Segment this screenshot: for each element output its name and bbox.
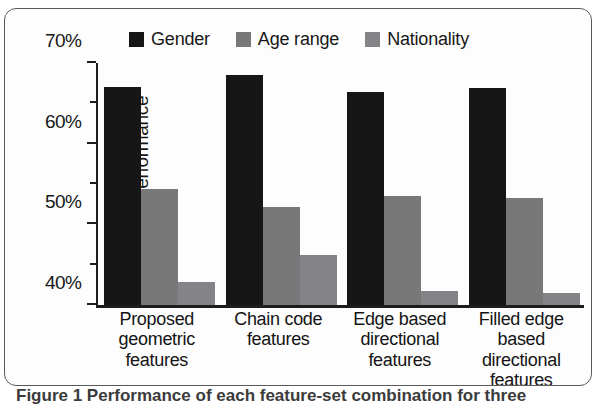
legend-swatch-icon	[236, 32, 251, 47]
legend-label: Nationality	[387, 29, 469, 50]
legend-swatch-icon	[365, 32, 380, 47]
bar-group	[461, 63, 583, 305]
bar-nat	[543, 293, 580, 305]
y-tick-label: 50%	[45, 191, 82, 213]
bar-nat	[178, 282, 215, 305]
y-tick-label: 60%	[45, 110, 82, 132]
bar-gender	[469, 88, 506, 305]
plot-area: Average performance 70%60%50%40%	[96, 63, 582, 305]
bar-age	[384, 196, 421, 305]
y-tick-major	[87, 61, 96, 63]
x-axis-line	[96, 305, 584, 308]
y-tick-major	[87, 222, 96, 224]
legend-item-gender: Gender	[129, 29, 210, 50]
x-axis-category-label: Filled edgebaseddirectionalfeatures	[455, 309, 589, 386]
bar-group	[96, 63, 218, 305]
y-tick-major	[87, 142, 96, 144]
y-tick-label: 40%	[45, 272, 82, 294]
bar-age	[141, 189, 178, 305]
legend-item-nationality: Nationality	[365, 29, 469, 50]
bar-gender	[226, 75, 263, 305]
bar-group	[218, 63, 340, 305]
bar-age	[263, 207, 300, 305]
legend-swatch-icon	[129, 32, 144, 47]
bar-nat	[300, 255, 337, 305]
legend-item-age-range: Age range	[236, 29, 339, 50]
figure-caption: Figure 1 Performance of each feature-set…	[16, 386, 588, 406]
chart-legend: Gender Age range Nationality	[5, 29, 592, 50]
y-tick-label: 70%	[45, 30, 82, 52]
x-axis-category-label: Chain codefeatures	[212, 309, 346, 350]
bar-group	[339, 63, 461, 305]
bar-nat	[421, 291, 458, 305]
legend-label: Gender	[151, 29, 210, 50]
bar-gender	[347, 92, 384, 305]
legend-label: Age range	[258, 29, 339, 50]
y-tick-major	[87, 303, 96, 305]
bar-gender	[104, 87, 141, 305]
x-axis-category-label: Edge baseddirectionalfeatures	[333, 309, 467, 370]
figure-frame: Gender Age range Nationality Average per…	[4, 8, 592, 386]
bar-age	[506, 198, 543, 305]
x-axis-category-label: Proposedgeometricfeatures	[90, 309, 224, 370]
